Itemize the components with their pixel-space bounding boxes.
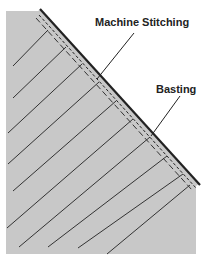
basting-label: Basting [156,84,196,95]
machine-stitching-leader [97,33,134,79]
sewing-diagram [0,0,210,263]
basting-leader [151,96,180,136]
machine-stitching-label: Machine Stitching [95,17,189,28]
fabric-panel [6,9,199,254]
